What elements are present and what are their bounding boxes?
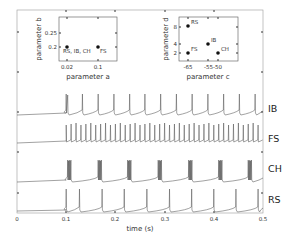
trace-ch: [17, 160, 263, 182]
inset-ab-xtick-0.1: 0.1: [94, 64, 103, 70]
inset-ab-ytick-0.25: 0.25: [45, 30, 58, 36]
inset-ab-xtick-0.02: 0.02: [61, 64, 73, 70]
x-tick-0: 0: [15, 216, 19, 222]
point-ib: [206, 42, 210, 46]
trace-label-ch: CH: [268, 163, 282, 174]
point-label-fs: FS: [100, 48, 107, 54]
inset-cd-ylabel: parameter d: [162, 17, 170, 61]
inset-ab-frame: [59, 17, 117, 61]
figure: 0 0.1 0.2 0.3 0.4 0.5 time (s) IB FS CH …: [0, 0, 293, 245]
point-label-rs-ib-ch: RS, IB, CH: [63, 48, 91, 54]
point-label-rs: RS: [191, 19, 199, 25]
inset-cd: 8 4 2 -65 -55-50 parameter c parameter d…: [162, 17, 238, 81]
inset-ab-ytick-0.2: 0.2: [48, 44, 57, 50]
point-label-fs: FS: [191, 46, 198, 52]
inset-cd-ytick-4: 4: [174, 41, 178, 47]
trace-ib: [17, 94, 263, 115]
point-rs: [186, 24, 190, 28]
trace-label-rs: RS: [268, 194, 281, 205]
inset-cd-xlabel: parameter c: [186, 73, 229, 81]
trace-label-ib: IB: [268, 103, 277, 114]
point-ch: [216, 51, 220, 55]
trace-label-fs: FS: [268, 133, 279, 144]
point-label-ib: IB: [211, 37, 217, 43]
x-tick-labels: 0 0.1 0.2 0.3 0.4 0.5: [15, 216, 268, 222]
inset-cd-xtick-65: -65: [184, 64, 193, 70]
voltage-traces: [17, 94, 263, 212]
inset-cd-ytick-2: 2: [174, 50, 178, 56]
x-tick-0.2: 0.2: [111, 216, 120, 222]
x-tick-0.3: 0.3: [161, 216, 170, 222]
inset-ab-xlabel: parameter a: [66, 73, 109, 81]
x-axis-label: time (s): [126, 225, 153, 233]
trace-rs: [17, 189, 263, 212]
inset-cd-xtick-55-50: -55-50: [204, 64, 222, 70]
x-tick-0.1: 0.1: [62, 216, 71, 222]
x-tick-0.4: 0.4: [210, 216, 219, 222]
inset-ab: 0.25 0.2 0.02 0.1 parameter a parameter …: [35, 17, 117, 81]
point-fs: [186, 51, 190, 55]
point-label-ch: CH: [221, 46, 229, 52]
x-tick-0.5: 0.5: [259, 216, 268, 222]
inset-cd-ytick-8: 8: [174, 24, 178, 30]
inset-ab-ylabel: parameter b: [35, 17, 43, 61]
trace-fs: [17, 123, 263, 143]
